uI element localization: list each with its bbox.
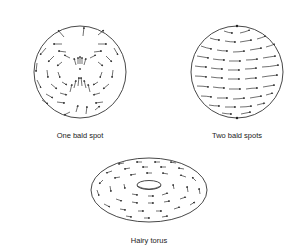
sphere-one-bald-spot xyxy=(34,26,126,118)
two-bald-spots-caption: Two bald spots xyxy=(212,131,262,140)
one-bald-spot-caption: One bald spot xyxy=(57,131,104,140)
hairy-torus-caption: Hairy torus xyxy=(131,236,167,245)
hairy-ball-diagram xyxy=(0,0,294,250)
sphere-two-bald-spots xyxy=(191,25,283,119)
hairy-torus xyxy=(91,158,207,222)
